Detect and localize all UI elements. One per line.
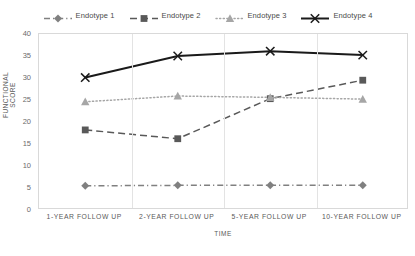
y-axis-tick-label: 15: [0, 139, 34, 148]
y-axis-tick-label: 5: [0, 183, 34, 192]
legend-label: Endotype 3: [248, 11, 287, 20]
legend-label: Endotype 2: [162, 11, 201, 20]
plot-area: [38, 33, 408, 209]
legend-item-2[interactable]: Endotype 2: [129, 10, 201, 21]
data-point-marker-diamond: [81, 182, 89, 190]
x-axis-ticks: 1-YEAR FOLLOW UP2-YEAR FOLLOW UP5-YEAR F…: [38, 213, 408, 227]
data-point-marker-square: [82, 127, 89, 134]
data-point-marker-diamond: [266, 181, 274, 189]
data-point-marker-square: [174, 135, 181, 142]
legend-label: Endotype 1: [76, 11, 115, 20]
data-point-marker-square: [140, 15, 147, 22]
y-axis-tick-label: 25: [0, 95, 34, 104]
x-axis-title: TIME: [38, 230, 408, 237]
line-chart: Endotype 1Endotype 2Endotype 3Endotype 4…: [0, 0, 415, 256]
data-point-marker-diamond: [174, 181, 182, 189]
y-axis-tick-label: 20: [0, 117, 34, 126]
y-axis-tick-label: 30: [0, 73, 34, 82]
x-axis-tick-label: 10-YEAR FOLLOW UP: [322, 213, 402, 220]
data-point-marker-diamond: [359, 181, 367, 189]
y-axis-tick-label: 10: [0, 161, 34, 170]
legend-swatch-icon: [43, 10, 73, 21]
y-axis-tick-label: 35: [0, 51, 34, 60]
y-axis-ticks: 0510152025303540: [0, 33, 34, 209]
gridline-vertical: [317, 34, 318, 208]
gridline-vertical: [132, 34, 133, 208]
legend-item-3[interactable]: Endotype 3: [215, 10, 287, 21]
x-axis-tick-label: 2-YEAR FOLLOW UP: [139, 213, 214, 220]
x-axis-tick-label: 5-YEAR FOLLOW UP: [232, 213, 307, 220]
legend-item-4[interactable]: Endotype 4: [300, 10, 372, 21]
x-axis-tick-label: 1-YEAR FOLLOW UP: [47, 213, 122, 220]
legend-label: Endotype 4: [333, 11, 372, 20]
y-axis-tick-label: 40: [0, 29, 34, 38]
legend-swatch-icon: [300, 10, 330, 21]
data-point-marker-square: [359, 77, 366, 84]
legend-item-1[interactable]: Endotype 1: [43, 10, 115, 21]
y-axis-tick-label: 0: [0, 205, 34, 214]
gridline-vertical: [224, 34, 225, 208]
data-point-marker-diamond: [54, 14, 62, 22]
chart-legend: Endotype 1Endotype 2Endotype 3Endotype 4: [0, 6, 415, 24]
legend-swatch-icon: [215, 10, 245, 21]
legend-swatch-icon: [129, 10, 159, 21]
